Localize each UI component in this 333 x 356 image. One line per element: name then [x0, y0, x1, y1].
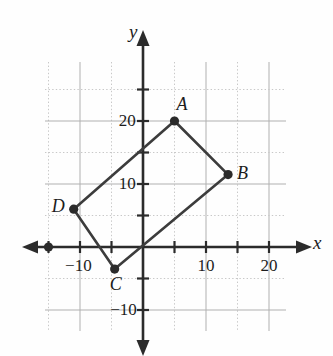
grid [45, 62, 286, 331]
vertex-label-d: D [52, 197, 65, 215]
vertex-point-d[interactable] [69, 205, 78, 214]
x-tick-label--10: −10 [65, 257, 92, 274]
coordinate-plot [0, 0, 333, 356]
vertex-label-c: C [110, 275, 122, 293]
y-axis-arrow-up [137, 30, 150, 46]
x-tick-label-10: 10 [197, 257, 214, 274]
y-tick-label--10: −10 [110, 301, 137, 318]
vertex-point-c[interactable] [110, 264, 119, 273]
x-axis-marker-point[interactable] [44, 242, 53, 251]
x-axis-arrow-right [296, 241, 312, 254]
x-axis-arrow-left [22, 241, 38, 254]
y-axis-label: y [129, 22, 137, 41]
x-axis-label: x [313, 233, 321, 252]
figure-canvas: ABCDyx−1010201020−10 [0, 0, 333, 356]
vertex-point-a[interactable] [170, 116, 179, 125]
vertex-label-a: A [177, 95, 188, 113]
y-axis-arrow-down [137, 340, 150, 356]
vertex-point-b[interactable] [223, 170, 232, 179]
vertex-label-b: B [237, 164, 248, 182]
y-tick-label-10: 10 [119, 175, 136, 192]
x-tick-label-20: 20 [260, 257, 277, 274]
y-tick-label-20: 20 [119, 112, 136, 129]
